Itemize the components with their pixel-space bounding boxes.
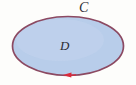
region-label-d: D	[60, 39, 69, 52]
curve-label-c: C	[79, 1, 88, 15]
math-diagram-figure: C D	[0, 0, 136, 85]
